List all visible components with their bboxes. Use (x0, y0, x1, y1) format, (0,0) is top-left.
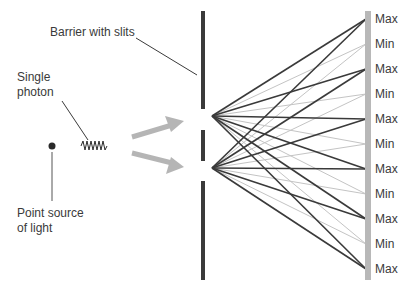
diagram-canvas (0, 0, 413, 292)
ray-to-max (212, 19, 366, 116)
photon-wave-icon (81, 141, 107, 150)
screen-label-min: Min (375, 188, 394, 200)
photon-leader-line (62, 101, 88, 140)
screen-label-max: Max (375, 163, 398, 175)
screen-label-min: Min (375, 88, 394, 100)
screen-label-min: Min (375, 38, 394, 50)
ray-to-max (212, 19, 366, 168)
ray-to-min (212, 116, 366, 244)
screen-label-min: Min (375, 238, 394, 250)
ray-to-max (212, 168, 366, 169)
double-slit-diagram: Barrier with slits Single photon Point s… (0, 0, 413, 292)
lower-arrow-icon (132, 153, 184, 174)
barrier-leader-line (136, 38, 197, 75)
screen-label-max: Max (375, 63, 398, 75)
ray-to-max (212, 116, 366, 269)
barrier (201, 11, 205, 280)
screen-label-max: Max (375, 113, 398, 125)
screen-label-max: Max (375, 263, 398, 275)
ray-to-max (212, 168, 366, 219)
screen-label-min: Min (375, 138, 394, 150)
screen-label-max: Max (375, 213, 398, 225)
upper-arrow-icon (132, 116, 184, 137)
photon-label-line1: Single (17, 70, 50, 85)
barrier-middle-segment (201, 130, 205, 161)
barrier-top-segment (201, 11, 205, 109)
barrier-label: Barrier with slits (50, 25, 135, 40)
ray-to-min (212, 168, 366, 194)
photon-label-line2: photon (17, 85, 54, 100)
ray-to-min (212, 44, 366, 168)
source-label-line2: of light (17, 221, 52, 236)
ray-to-max (212, 168, 366, 269)
barrier-bottom-segment (201, 181, 205, 280)
source-label-line1: Point source (17, 206, 84, 221)
ray-to-min (212, 144, 366, 168)
ray-lines (212, 19, 366, 269)
screen-label-max: Max (375, 13, 398, 25)
point-source-icon (49, 143, 56, 150)
detection-screen (365, 11, 371, 280)
